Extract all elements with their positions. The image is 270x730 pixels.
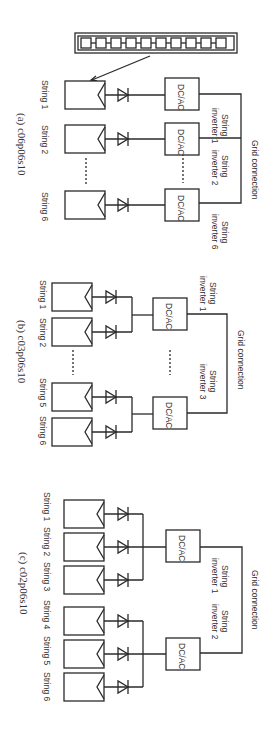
panel-a: DC/AC DC/AC DC/AC String inverter 1 Stri…: [15, 33, 260, 250]
inverter-1-label-b: inverter 1: [210, 108, 220, 144]
inverter-6-dcac: DC/AC: [176, 195, 186, 221]
grid-connection-label: Grid connection: [250, 570, 260, 630]
pv-string-6: [65, 191, 105, 219]
inverter-2-dcac: DC/AC: [177, 643, 187, 669]
string-2-label: String 2: [42, 527, 52, 557]
inverter-6-label-a: String: [220, 221, 230, 243]
inverter-1-label-a: String: [220, 114, 230, 136]
pv-string-6: [64, 673, 104, 701]
panel-c: DC/AC DC/AC String inverter 1 String inv…: [17, 492, 260, 702]
inverter-2-label-a: String: [220, 610, 230, 632]
inverter-1-label-b: inverter 1: [210, 558, 220, 594]
inverter-2-label-b: inverter 2: [210, 604, 220, 640]
pv-string-2: [65, 125, 105, 153]
pv-string-5: [52, 383, 92, 411]
pv-string-1: [64, 500, 104, 528]
string-6-label: String 6: [38, 416, 48, 446]
string-6-label: String 6: [40, 192, 50, 222]
string-1-label: String 1: [38, 280, 48, 310]
inverter-3-label-b: inverter 3: [198, 364, 208, 400]
string-5-label: String 5: [38, 378, 48, 408]
caption-c: (c) c02p06s10: [17, 552, 30, 615]
pv-string-2: [64, 533, 104, 561]
grid-connection-label: Grid connection: [236, 330, 246, 390]
pv-string-4: [64, 607, 104, 635]
pv-string-3: [64, 566, 104, 594]
string-3-label: String 3: [42, 562, 52, 592]
caption-a: (a) c06p06s10: [15, 113, 28, 176]
pv-string-6: [52, 418, 92, 446]
inverter-2-label-a: String: [220, 155, 230, 177]
string-5-label: String 5: [42, 636, 52, 666]
inverter-1-label-b: inverter 1: [198, 276, 208, 312]
pv-string-5: [64, 640, 104, 668]
inverter-1-dcac: DC/AC: [176, 84, 186, 110]
inverter-3-dcac: DC/AC: [164, 402, 174, 428]
inverter-3-label-a: String: [208, 370, 218, 392]
pv-string-1: [65, 81, 105, 109]
pv-string-1: [52, 283, 92, 311]
inverter-2-label-b: inverter 2: [210, 150, 220, 186]
pv-string-2: [52, 318, 92, 346]
string-1-label: String 1: [42, 492, 52, 522]
panel-b: DC/AC DC/AC String inverter 1 String inv…: [15, 276, 246, 446]
module-string-inset: [75, 33, 237, 81]
string-4-label: String 4: [42, 600, 52, 630]
string-2-label: String 2: [38, 318, 48, 348]
caption-b: (b) c03p06s10: [15, 320, 28, 384]
string-2-label: String 2: [40, 125, 50, 155]
pv-configuration-diagram: DC/AC DC/AC DC/AC String inverter 1 Stri…: [0, 0, 270, 730]
inverter-6-label-b: inverter 6: [210, 214, 220, 250]
inverter-1-label-a: String: [208, 282, 218, 304]
inverter-1-dcac: DC/AC: [177, 535, 187, 561]
inverter-1-dcac: DC/AC: [164, 303, 174, 329]
inverter-1-label-a: String: [220, 565, 230, 587]
inverter-2-dcac: DC/AC: [176, 129, 186, 155]
string-6-label: String 6: [42, 672, 52, 702]
string-1-label: String 1: [40, 80, 50, 110]
inset-pointer-arrow: [92, 56, 150, 80]
grid-connection-label: Grid connection: [250, 140, 260, 200]
